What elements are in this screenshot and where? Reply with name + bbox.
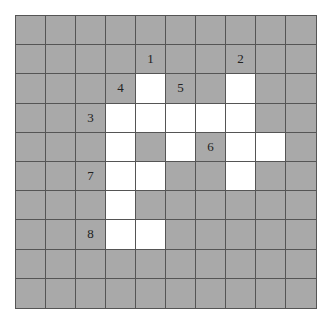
blocked-cell bbox=[16, 133, 46, 162]
blocked-cell bbox=[256, 162, 286, 191]
blocked-cell bbox=[136, 250, 166, 279]
blocked-cell bbox=[286, 191, 316, 220]
open-cell[interactable] bbox=[256, 133, 286, 162]
blocked-cell bbox=[76, 45, 106, 74]
blocked-cell bbox=[136, 191, 166, 220]
blocked-cell bbox=[226, 16, 256, 45]
blocked-cell: 1 bbox=[136, 45, 166, 74]
blocked-cell: 8 bbox=[76, 220, 106, 249]
blocked-cell bbox=[196, 279, 226, 308]
blocked-cell bbox=[106, 16, 136, 45]
blocked-cell bbox=[256, 74, 286, 103]
blocked-cell bbox=[46, 250, 76, 279]
open-cell[interactable] bbox=[166, 133, 196, 162]
blocked-cell bbox=[226, 191, 256, 220]
blocked-cell bbox=[16, 45, 46, 74]
clue-number: 6 bbox=[196, 139, 225, 155]
blocked-cell bbox=[286, 104, 316, 133]
open-cell[interactable] bbox=[226, 133, 256, 162]
blocked-cell bbox=[136, 133, 166, 162]
clue-number: 4 bbox=[106, 80, 135, 96]
blocked-cell bbox=[46, 16, 76, 45]
blocked-cell bbox=[16, 74, 46, 103]
open-cell[interactable] bbox=[196, 104, 226, 133]
blocked-cell bbox=[166, 279, 196, 308]
blocked-cell bbox=[46, 162, 76, 191]
open-cell[interactable] bbox=[136, 74, 166, 103]
blocked-cell bbox=[166, 45, 196, 74]
blocked-cell bbox=[46, 133, 76, 162]
blocked-cell bbox=[256, 191, 286, 220]
blocked-cell bbox=[76, 250, 106, 279]
blocked-cell bbox=[226, 279, 256, 308]
blocked-cell bbox=[196, 162, 226, 191]
blocked-cell bbox=[286, 16, 316, 45]
open-cell[interactable] bbox=[106, 133, 136, 162]
blocked-cell bbox=[226, 220, 256, 249]
open-cell[interactable] bbox=[106, 162, 136, 191]
blocked-cell: 5 bbox=[166, 74, 196, 103]
blocked-cell bbox=[106, 45, 136, 74]
blocked-cell bbox=[46, 279, 76, 308]
blocked-cell: 3 bbox=[76, 104, 106, 133]
blocked-cell bbox=[196, 220, 226, 249]
crossword-grid: 12453678 bbox=[15, 15, 317, 309]
blocked-cell bbox=[16, 250, 46, 279]
blocked-cell bbox=[226, 250, 256, 279]
blocked-cell bbox=[196, 74, 226, 103]
open-cell[interactable] bbox=[136, 104, 166, 133]
blocked-cell bbox=[166, 250, 196, 279]
blocked-cell bbox=[166, 191, 196, 220]
clue-number: 2 bbox=[226, 51, 255, 67]
clue-number: 7 bbox=[76, 168, 105, 184]
blocked-cell bbox=[106, 279, 136, 308]
blocked-cell bbox=[286, 250, 316, 279]
open-cell[interactable] bbox=[226, 74, 256, 103]
open-cell[interactable] bbox=[106, 191, 136, 220]
blocked-cell: 4 bbox=[106, 74, 136, 103]
blocked-cell bbox=[16, 279, 46, 308]
open-cell[interactable] bbox=[106, 220, 136, 249]
open-cell[interactable] bbox=[226, 104, 256, 133]
blocked-cell bbox=[286, 220, 316, 249]
blocked-cell bbox=[256, 45, 286, 74]
blocked-cell bbox=[46, 191, 76, 220]
blocked-cell bbox=[286, 45, 316, 74]
blocked-cell bbox=[76, 133, 106, 162]
blocked-cell bbox=[166, 16, 196, 45]
blocked-cell bbox=[286, 279, 316, 308]
blocked-cell bbox=[256, 16, 286, 45]
blocked-cell bbox=[286, 162, 316, 191]
blocked-cell bbox=[196, 45, 226, 74]
blocked-cell bbox=[136, 279, 166, 308]
blocked-cell bbox=[76, 279, 106, 308]
open-cell[interactable] bbox=[226, 162, 256, 191]
blocked-cell bbox=[16, 104, 46, 133]
blocked-cell bbox=[76, 191, 106, 220]
blocked-cell bbox=[196, 250, 226, 279]
blocked-cell bbox=[16, 162, 46, 191]
blocked-cell bbox=[166, 220, 196, 249]
open-cell[interactable] bbox=[136, 162, 166, 191]
blocked-cell bbox=[46, 220, 76, 249]
clue-number: 5 bbox=[166, 80, 195, 96]
blocked-cell bbox=[256, 279, 286, 308]
blocked-cell bbox=[196, 191, 226, 220]
blocked-cell bbox=[106, 250, 136, 279]
blocked-cell bbox=[256, 250, 286, 279]
blocked-cell bbox=[46, 74, 76, 103]
blocked-cell bbox=[76, 74, 106, 103]
clue-number: 3 bbox=[76, 110, 105, 126]
open-cell[interactable] bbox=[106, 104, 136, 133]
blocked-cell bbox=[196, 16, 226, 45]
blocked-cell bbox=[16, 220, 46, 249]
blocked-cell bbox=[76, 16, 106, 45]
blocked-cell bbox=[136, 16, 166, 45]
blocked-cell bbox=[166, 162, 196, 191]
blocked-cell bbox=[256, 220, 286, 249]
open-cell[interactable] bbox=[166, 104, 196, 133]
open-cell[interactable] bbox=[136, 220, 166, 249]
blocked-cell bbox=[256, 104, 286, 133]
blocked-cell bbox=[286, 133, 316, 162]
blocked-cell: 7 bbox=[76, 162, 106, 191]
